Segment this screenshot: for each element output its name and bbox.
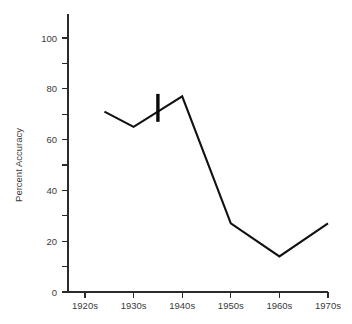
- y-tick-label-40: 40: [46, 185, 57, 196]
- x-tick-label-1960s: 1960s: [266, 300, 292, 311]
- x-tick-label-1920s: 1920s: [72, 300, 98, 311]
- y-tick-label-100: 100: [41, 33, 57, 44]
- chart-container: 100 80 60 40 20 0 1920s 1930s 1940s 1950…: [0, 0, 352, 324]
- x-tick-label-1940s: 1940s: [169, 300, 195, 311]
- x-tick-label-1930s: 1930s: [121, 300, 147, 311]
- x-tick-label-1970s: 1970s: [315, 300, 341, 311]
- x-tick-label-1950s: 1950s: [218, 300, 244, 311]
- y-tick-label-0: 0: [52, 287, 57, 298]
- data-series-line: [104, 96, 328, 256]
- y-tick-label-60: 60: [46, 134, 57, 145]
- percent-accuracy-line-chart: 100 80 60 40 20 0 1920s 1930s 1940s 1950…: [0, 0, 352, 324]
- y-tick-label-80: 80: [46, 83, 57, 94]
- y-axis-title: Percent Accuracy: [13, 128, 24, 202]
- y-tick-label-20: 20: [46, 236, 57, 247]
